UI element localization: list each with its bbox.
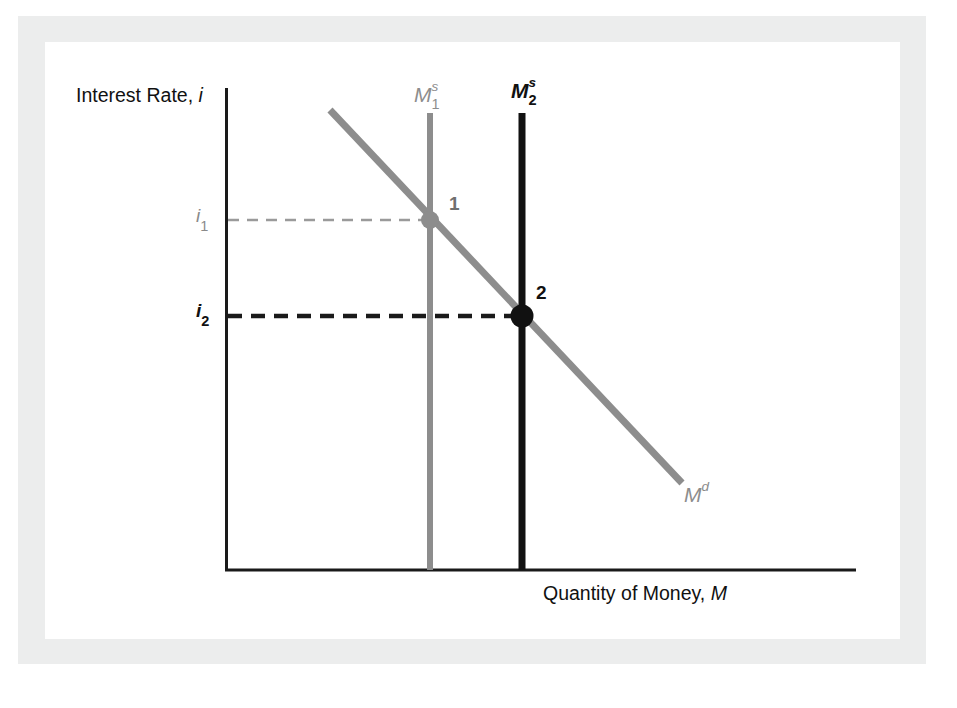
y-axis-title-text: Interest Rate, — [76, 84, 193, 106]
equilibrium-point-2-label: 2 — [536, 283, 547, 302]
tick-label-i1-subscript: 1 — [200, 219, 208, 234]
money-demand-label-variable: M — [684, 483, 702, 506]
money-supply-1-label-superscript: s — [432, 80, 439, 94]
equilibrium-point-2 — [511, 305, 534, 328]
money-demand-label-superscript: d — [702, 480, 710, 494]
money-supply-2-label: Ms2 — [511, 80, 529, 101]
y-axis-title: Interest Rate, i — [76, 86, 203, 106]
equilibrium-point-1 — [421, 211, 439, 229]
x-axis-title-text: Quantity of Money, — [543, 582, 705, 604]
money-demand-label: Md — [684, 484, 702, 505]
figure-root: Interest Rate, i Quantity of Money, M i1… — [0, 0, 957, 708]
money-supply-2-label-variable: M — [511, 79, 529, 102]
money-demand-curve — [330, 110, 682, 483]
tick-label-i1: i1 — [196, 206, 200, 225]
tick-label-i2: i2 — [196, 301, 201, 320]
money-supply-1-label-variable: M — [414, 83, 432, 106]
money-supply-1-label: Ms1 — [414, 84, 432, 105]
money-market-chart — [0, 0, 957, 708]
y-axis-title-variable: i — [198, 84, 202, 106]
money-supply-2-label-subscript: 2 — [529, 93, 537, 108]
x-axis-title: Quantity of Money, M — [543, 584, 727, 604]
money-supply-2-label-superscript: s — [529, 76, 537, 90]
tick-label-i2-subscript: 2 — [201, 314, 209, 329]
x-axis-title-variable: M — [711, 582, 727, 604]
equilibrium-point-1-label: 1 — [449, 194, 460, 213]
money-supply-1-label-subscript: 1 — [432, 97, 440, 112]
